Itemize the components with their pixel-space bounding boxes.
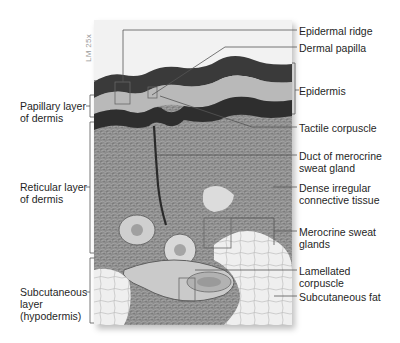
label-reticular-layer: Reticular layer of dermis [20, 181, 87, 205]
label-line: Lamellated [299, 265, 350, 277]
label-line: Epidermal ridge [299, 25, 373, 37]
label-line: glands [299, 238, 376, 250]
label-line: Epidermis [299, 85, 346, 97]
label-line: Tactile corpuscle [299, 122, 377, 134]
label-line: of dermis [20, 193, 87, 205]
label-epidermal-ridge: Epidermal ridge [299, 25, 373, 37]
label-line: Reticular layer [20, 181, 87, 193]
label-line: Duct of merocrine [299, 150, 382, 162]
label-merocrine-sweat-glands: Merocrine sweat glands [299, 226, 376, 250]
magnification-label: LM 25x [84, 22, 94, 62]
label-line: Dense irregular [299, 182, 380, 194]
label-dermal-papilla: Dermal papilla [299, 42, 366, 54]
label-subcutaneous-layer: Subcutaneous layer (hypodermis) [20, 286, 87, 322]
label-lamellated-corpuscle: Lamellated corpuscle [299, 265, 350, 289]
label-line: sweat gland [299, 162, 382, 174]
label-subcutaneous-fat: Subcutaneous fat [299, 291, 381, 303]
label-line: connective tissue [299, 194, 380, 206]
label-line: (hypodermis) [20, 310, 87, 322]
epidermis-bracket [292, 63, 295, 114]
label-line: Subcutaneous fat [299, 291, 381, 303]
label-duct-sweat-gland: Duct of merocrine sweat gland [299, 150, 382, 174]
label-dense-irregular-tissue: Dense irregular connective tissue [299, 182, 380, 206]
label-line: Subcutaneous [20, 286, 87, 298]
label-epidermis: Epidermis [299, 85, 346, 97]
label-line: corpuscle [299, 277, 350, 289]
label-line: Dermal papilla [299, 42, 366, 54]
label-line: Merocrine sweat [299, 226, 376, 238]
micrograph-art [94, 20, 292, 325]
label-line: Papillary layer [20, 100, 86, 112]
label-line: of dermis [20, 112, 86, 124]
label-papillary-layer: Papillary layer of dermis [20, 100, 86, 124]
label-tactile-corpuscle: Tactile corpuscle [299, 122, 377, 134]
skin-micrograph [94, 20, 292, 325]
label-line: layer [20, 298, 87, 310]
